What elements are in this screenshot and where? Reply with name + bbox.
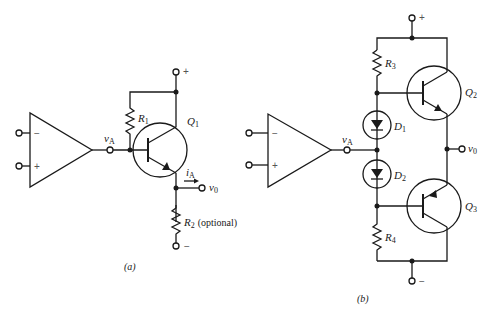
label-r2: R2(optional) xyxy=(183,216,237,230)
opamp-a-minus-sign: − xyxy=(34,128,40,139)
opamp-a-inverting-terminal[interactable] xyxy=(16,130,22,136)
label-r4: R4 xyxy=(384,231,396,245)
label-q2: Q2 xyxy=(465,86,477,100)
output-v0-b-terminal[interactable] xyxy=(459,146,465,152)
opamp-a-noninverting-terminal[interactable] xyxy=(16,163,22,169)
supply-pos-a-terminal[interactable] xyxy=(173,69,179,75)
supply-neg-b-label: − xyxy=(419,276,425,287)
supply-neg-a-label: − xyxy=(184,241,190,252)
label-q1: Q1 xyxy=(187,115,199,129)
opamp-a: − + xyxy=(16,113,92,187)
supply-pos-b-label: + xyxy=(419,12,425,23)
label-va-b: vA xyxy=(342,133,353,147)
label-va-a: vA xyxy=(104,132,115,146)
label-d2: D2 xyxy=(393,169,406,183)
opamp-b: − + xyxy=(246,114,331,187)
supply-pos-b-terminal[interactable] xyxy=(409,15,415,21)
caption-a: (a) xyxy=(124,261,136,273)
label-q3: Q3 xyxy=(465,200,477,214)
opamp-b-plus-sign: + xyxy=(272,160,278,171)
opamp-a-plus-sign: + xyxy=(34,161,40,172)
output-v0-a-terminal[interactable] xyxy=(199,185,205,191)
opamp-b-inverting-terminal[interactable] xyxy=(246,130,252,136)
diode-d1: D1 xyxy=(363,93,406,150)
caption-b: (b) xyxy=(357,293,369,305)
label-r3: R3 xyxy=(384,57,396,71)
label-d1: D1 xyxy=(393,120,406,134)
supply-pos-a-label: + xyxy=(183,66,189,77)
label-r1: R1 xyxy=(137,112,149,126)
opamp-b-noninverting-terminal[interactable] xyxy=(246,162,252,168)
supply-neg-b-terminal[interactable] xyxy=(409,278,415,284)
current-arrow-head xyxy=(194,179,199,184)
opamp-b-minus-sign: − xyxy=(272,128,278,139)
diode-d2: D2 xyxy=(363,150,406,206)
resistor-r2: R2(optional) xyxy=(172,205,237,243)
node-va-a-terminal[interactable] xyxy=(107,147,113,153)
resistor-r3: R3 xyxy=(373,50,396,93)
resistor-r4: R4 xyxy=(373,206,396,261)
label-v0-b: v0 xyxy=(468,142,477,156)
supply-neg-a-terminal[interactable] xyxy=(173,243,179,249)
circuit-a: − + vA R1 + Q1 v0 xyxy=(16,66,237,273)
node-va-b-terminal[interactable] xyxy=(344,147,350,153)
circuit-b: − + vA + R3 Q2 xyxy=(246,12,477,305)
label-v0-a: v0 xyxy=(209,181,218,195)
circuit-figure: − + vA R1 + Q1 v0 xyxy=(0,0,490,316)
label-ia: iA xyxy=(186,166,195,180)
